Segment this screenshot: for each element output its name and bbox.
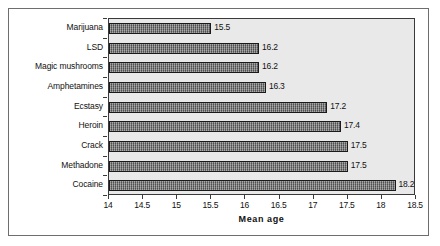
category-tick xyxy=(103,18,107,19)
category-axis-labels: MarijuanaLSDMagic mushroomsAmphetaminesE… xyxy=(0,18,103,195)
x-axis-tick-label: 16.5 xyxy=(271,200,287,210)
x-axis-tick xyxy=(279,195,280,199)
x-axis-tick-label: 18 xyxy=(376,200,385,210)
category-tick xyxy=(103,156,107,157)
x-axis-tick xyxy=(313,195,314,199)
category-tick xyxy=(103,116,107,117)
bar-row xyxy=(109,98,414,118)
bar-value-label: 17.5 xyxy=(351,160,367,171)
x-axis-tick-label: 15 xyxy=(172,200,181,210)
category-tick xyxy=(103,136,107,137)
bar-row xyxy=(109,157,414,177)
bar xyxy=(109,62,259,73)
category-tick xyxy=(103,195,107,196)
x-axis-tick xyxy=(244,195,245,199)
x-axis-tick-label: 14 xyxy=(103,200,112,210)
category-label: Magic mushrooms xyxy=(35,60,103,72)
category-label: Marijuana xyxy=(67,21,103,33)
x-axis-tick-label: 16 xyxy=(240,200,249,210)
bar xyxy=(109,180,396,191)
bar xyxy=(109,23,211,34)
x-axis-tick xyxy=(347,195,348,199)
x-axis-tick xyxy=(176,195,177,199)
bar-value-label: 17.2 xyxy=(330,101,346,112)
bar-value-label: 17.5 xyxy=(351,140,367,151)
bar-value-label: 16.2 xyxy=(262,61,278,72)
category-tick xyxy=(103,38,107,39)
bar-row xyxy=(109,176,414,196)
category-tick xyxy=(103,57,107,58)
x-axis-tick-label: 18.5 xyxy=(407,200,423,210)
category-label: Ecstasy xyxy=(74,100,103,112)
x-axis-tick xyxy=(142,195,143,199)
bar-value-label: 17.4 xyxy=(344,120,360,131)
bar-chart-figure: MarijuanaLSDMagic mushroomsAmphetaminesE… xyxy=(0,0,440,246)
bar-value-label: 15.5 xyxy=(214,22,230,33)
x-axis-tick-label: 15.5 xyxy=(202,200,218,210)
x-axis-tick xyxy=(210,195,211,199)
bar xyxy=(109,141,348,152)
bar xyxy=(109,121,341,132)
category-label: LSD xyxy=(87,41,103,53)
category-label: Heroin xyxy=(79,119,103,131)
x-axis-tick xyxy=(381,195,382,199)
bar xyxy=(109,102,327,113)
x-axis-tick-label: 17.5 xyxy=(339,200,355,210)
x-axis-tick-label: 14.5 xyxy=(134,200,150,210)
category-tick xyxy=(103,77,107,78)
bar-value-label: 18.2 xyxy=(399,179,415,190)
bar-value-label: 16.2 xyxy=(262,42,278,53)
bar xyxy=(109,161,348,172)
bar-value-label: 16.3 xyxy=(269,81,285,92)
bar xyxy=(109,43,259,54)
bar-row xyxy=(109,19,414,39)
category-label: Cocaine xyxy=(73,178,104,190)
x-axis-tick-label: 17 xyxy=(308,200,317,210)
bar-row xyxy=(109,78,414,98)
bar-row xyxy=(109,137,414,157)
category-tick xyxy=(103,175,107,176)
bar xyxy=(109,82,266,93)
category-label: Crack xyxy=(81,139,103,151)
value-axis: 1414.51515.51616.51717.51818.5 xyxy=(108,195,415,213)
category-tick xyxy=(103,97,107,98)
category-label: Amphetamines xyxy=(48,80,104,92)
category-label: Methadone xyxy=(61,159,103,171)
x-axis-tick xyxy=(108,195,109,199)
bar-row xyxy=(109,117,414,137)
x-axis-title: Mean age xyxy=(108,214,415,224)
x-axis-tick xyxy=(415,195,416,199)
